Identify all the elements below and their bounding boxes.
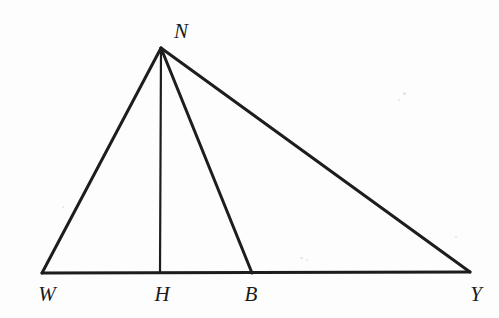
vertex-label-B: B xyxy=(245,284,258,305)
segment-WY xyxy=(42,272,470,273)
segment-group xyxy=(42,48,470,273)
segment-WN xyxy=(42,48,161,273)
geometry-figure: N W H B Y xyxy=(0,0,499,318)
segment-NH xyxy=(160,48,161,273)
vertex-label-Y: Y xyxy=(470,284,482,305)
vertex-label-N: N xyxy=(174,21,188,42)
vertex-label-W: W xyxy=(38,284,56,305)
vertex-label-H: H xyxy=(154,284,169,305)
diagram-canvas xyxy=(0,0,499,318)
